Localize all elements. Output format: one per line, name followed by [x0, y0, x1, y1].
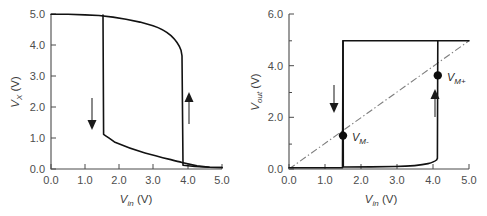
left-yaxis-title-unit: (V): [9, 76, 21, 92]
right-unity-gain-line: [289, 41, 469, 169]
right-axis-spines: [289, 14, 469, 169]
left-up-arrow: [185, 92, 194, 124]
right-xtick-label-5: 5.0: [461, 174, 476, 186]
marker-dot-vm-plus: [434, 71, 442, 79]
right-down-arrow: [330, 85, 339, 113]
left-plot-svg: 5.0 4.0 3.0 2.0 1.0 0.0 0.0 1.0 2.0 3.0 …: [0, 0, 243, 216]
left-y-ticks: [51, 14, 56, 169]
right-yaxis-title: Vout (V): [249, 73, 264, 111]
right-xtick-label-4: 4.0: [425, 174, 440, 186]
left-ytick-label-1: 1.0: [30, 132, 45, 144]
right-xaxis-title: Vin (V): [365, 193, 398, 208]
label-vm-minus: VM-: [352, 131, 369, 146]
right-xtick-label-0: 0.0: [281, 174, 296, 186]
left-ytick-label-4: 4.0: [30, 39, 45, 51]
right-ytick-label-6: 6.0: [268, 8, 283, 20]
left-ytick-label-2: 2.0: [30, 101, 45, 113]
figure-container: 5.0 4.0 3.0 2.0 1.0 0.0 0.0 1.0 2.0 3.0 …: [0, 0, 487, 216]
right-yaxis-title-unit: (V): [249, 73, 261, 89]
right-plot-panel: 6.0 4.0 2.0 0.0 0.0 1.0 2.0 3.0 4.0 5.0 …: [243, 0, 487, 216]
left-ytick-label-5: 5.0: [30, 8, 45, 20]
right-yaxis-title-sub: out: [255, 91, 264, 103]
label-vm-minus-sub: M-: [359, 137, 369, 146]
label-vm-plus-sub: M+: [454, 77, 466, 86]
left-xtick-label-0: 0.0: [43, 174, 58, 186]
label-vm-plus: VM+: [447, 71, 466, 86]
left-plot-panel: 5.0 4.0 3.0 2.0 1.0 0.0 0.0 1.0 2.0 3.0 …: [0, 0, 243, 216]
left-xtick-label-2: 2.0: [111, 174, 126, 186]
left-xtick-label-3: 3.0: [145, 174, 160, 186]
right-ytick-label-4: 4.0: [268, 60, 283, 72]
left-curve-lower-branch: [103, 15, 222, 168]
right-xtick-label-2: 2.0: [353, 174, 368, 186]
left-xtick-label-5: 5.0: [214, 174, 229, 186]
right-curve-high-to-low: [343, 41, 438, 167]
right-y-ticks: [289, 14, 294, 169]
left-down-arrow: [88, 98, 97, 130]
left-xaxis-title-unit: (V): [137, 193, 153, 205]
right-plot-svg: 6.0 4.0 2.0 0.0 0.0 1.0 2.0 3.0 4.0 5.0 …: [243, 0, 487, 216]
left-axis-spines: [51, 14, 222, 169]
marker-dot-vm-minus: [339, 131, 347, 139]
right-ytick-label-2: 2.0: [268, 111, 283, 123]
left-xaxis-title: Vin (V): [120, 193, 153, 208]
left-xtick-label-1: 1.0: [77, 174, 92, 186]
right-xtick-label-1: 1.0: [317, 174, 332, 186]
left-curve-upper-branch: [51, 14, 222, 167]
left-yaxis-title: VX (V): [9, 76, 24, 108]
right-xaxis-title-unit: (V): [382, 193, 398, 205]
left-xtick-label-4: 4.0: [180, 174, 195, 186]
right-xtick-label-3: 3.0: [389, 174, 404, 186]
left-ytick-label-3: 3.0: [30, 70, 45, 82]
